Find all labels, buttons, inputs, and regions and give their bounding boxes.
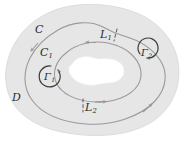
label-inner-contour-C1: C1 xyxy=(40,47,53,60)
hole-fill xyxy=(69,57,124,86)
figure-container: C C1 L1 L2 Γ1 Γ2 D xyxy=(0,0,185,141)
domain-hole xyxy=(69,57,124,86)
contour-diagram-svg xyxy=(0,0,185,141)
label-crosscut-L1: L1 xyxy=(100,29,112,42)
label-crosscut-L2: L2 xyxy=(85,102,97,115)
label-domain-D: D xyxy=(12,92,21,105)
label-outer-contour-C: C xyxy=(35,24,44,37)
label-gamma1: Γ1 xyxy=(44,72,55,83)
label-gamma2: Γ2 xyxy=(141,48,152,59)
